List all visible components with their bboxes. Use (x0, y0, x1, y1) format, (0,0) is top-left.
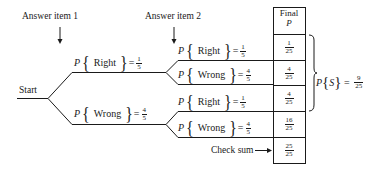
final-p-cell: 425 (273, 86, 305, 111)
prob-l2-right-right: P{Right}=15 (178, 43, 246, 59)
success-brace (309, 35, 317, 111)
start-label: Start (19, 86, 37, 96)
prob-l1-wrong: P{Wrong}=45 (74, 106, 147, 122)
branch-l1-right (48, 73, 166, 99)
final-p-cell: 425 (273, 61, 305, 85)
answer-item-1-label: Answer item 1 (22, 12, 78, 22)
final-p-cell: 1625 (273, 112, 305, 137)
final-p-header: Final P (273, 8, 305, 34)
tree-lines (0, 0, 368, 173)
fraction: 45 (142, 107, 148, 122)
success-probability: P{S} = 925 (316, 74, 363, 91)
answer-item-2-label: Answer item 2 (145, 12, 201, 22)
prob-l2-right-wrong: P{Wrong}=45 (178, 67, 251, 83)
prob-l2-wrong-right: P{Right}=15 (178, 94, 246, 110)
check-sum-cell: 2525 (273, 138, 305, 163)
prob-l1-right: P{Right}=15 (74, 55, 142, 71)
fraction: 15 (136, 56, 142, 71)
final-p-cell: 125 (273, 35, 305, 60)
arrow-head-2 (172, 39, 177, 44)
check-sum-label: Check sum (211, 146, 253, 156)
prob-l2-wrong-wrong: P{Wrong}=45 (178, 120, 251, 136)
arrow-head-1 (58, 39, 63, 44)
